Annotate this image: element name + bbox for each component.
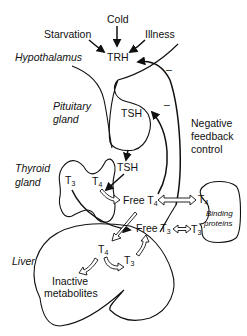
hormone-t3-thyroid: T3 xyxy=(65,174,75,187)
feedback-arrow-trh xyxy=(138,62,180,205)
hormone-free-t3: Free T3 xyxy=(136,222,171,235)
hormone-bound-t4: T4 xyxy=(198,193,208,206)
label-hypothalamus: Hypothalamus xyxy=(15,51,83,63)
hormone-tsh-released: TSH xyxy=(117,161,138,173)
label-thyroid-line1: Thyroid xyxy=(15,162,51,174)
thyroid-outline xyxy=(59,159,115,222)
label-thyroid-line2: gland xyxy=(15,176,42,188)
t3-binding-exchange-arrow xyxy=(173,225,191,233)
label-liver: Liver xyxy=(12,255,35,267)
label-feedback-line1: Negative xyxy=(191,117,233,129)
t4-inactivation-arrow xyxy=(79,258,98,275)
hormone-t3-liver: T3 xyxy=(124,254,134,267)
tsh-to-thyroid-arrow xyxy=(106,174,124,190)
feedback-sign-tsh: – xyxy=(164,98,170,110)
t4-release-arrow xyxy=(100,189,120,204)
hormone-t4-thyroid: T4 xyxy=(92,175,102,188)
hormone-tsh-pituitary: TSH xyxy=(121,107,142,119)
label-feedback-line2: feedback xyxy=(191,130,234,142)
label-binding-proteins-line2: proteins xyxy=(203,219,232,228)
label-inactive-line2: metabolites xyxy=(44,287,98,299)
hormone-free-t4: Free T4 xyxy=(123,194,158,207)
label-inactive-line1: Inactive xyxy=(52,275,88,287)
hormone-bound-t3: T3 xyxy=(191,223,201,236)
tsh-release-arrow xyxy=(126,150,128,160)
label-pituitary-line1: Pituitary xyxy=(53,100,92,112)
feedback-arrow-tsh xyxy=(152,112,167,194)
hormone-trh: TRH xyxy=(107,51,129,63)
thyroid-axis-diagram: Cold Starvation Illness TRH Hypothalamus… xyxy=(0,0,247,336)
feedback-sign-trh: – xyxy=(166,63,172,75)
t3-export-arrow xyxy=(136,235,149,256)
hormone-t4-liver: T4 xyxy=(98,243,108,256)
label-feedback-line3: control xyxy=(191,143,223,155)
stimulus-illness: Illness xyxy=(145,28,175,40)
stimulus-arrows xyxy=(89,26,145,52)
label-binding-proteins-line1: Binding xyxy=(206,209,233,218)
t4-to-t3-conversion-arrow xyxy=(104,257,124,271)
stimulus-starvation: Starvation xyxy=(44,28,91,40)
stimulus-cold: Cold xyxy=(107,13,129,25)
label-pituitary-line2: gland xyxy=(53,113,80,125)
